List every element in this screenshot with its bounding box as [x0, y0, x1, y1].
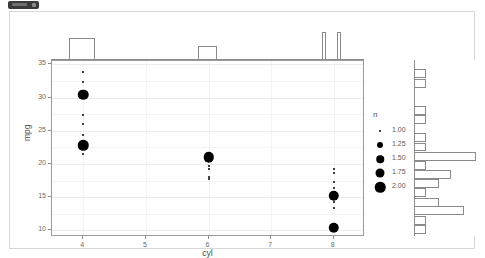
scatter-point: [333, 181, 335, 183]
window-chip[interactable]: [8, 1, 39, 9]
y-tick-mark: [48, 97, 51, 98]
legend-title: n: [373, 110, 418, 119]
gridline-horizontal-minor: [52, 147, 363, 148]
scatter-point: [82, 123, 84, 125]
legend-entry-label: 1.50: [392, 154, 406, 161]
legend-key-dot: [376, 169, 385, 178]
x-tick-mark: [82, 236, 83, 239]
x-tick-mark: [270, 236, 271, 239]
right-marginal-histogram: [414, 60, 476, 236]
right-histogram-bar: [414, 225, 426, 234]
x-tick-label: 8: [321, 241, 345, 248]
y-tick-label: 30: [25, 93, 46, 100]
y-tick-label: 15: [25, 192, 46, 199]
top-histogram-bar: [69, 38, 95, 60]
right-histogram-bar: [414, 206, 464, 215]
right-histogram-bar: [414, 198, 439, 207]
x-tick-label: 4: [70, 241, 94, 248]
top-histogram-bar: [198, 46, 217, 60]
scatter-plot-panel: [51, 60, 364, 236]
gridline-horizontal: [52, 197, 363, 198]
x-tick-mark: [208, 236, 209, 239]
x-tick-mark: [333, 236, 334, 239]
gridline-horizontal-minor: [52, 214, 363, 215]
legend-entry[interactable]: 1.25: [372, 138, 418, 152]
x-axis-title: cyl: [51, 248, 364, 258]
scatter-point: [78, 90, 89, 101]
right-histogram-bar: [414, 152, 476, 161]
scatter-point: [82, 71, 84, 73]
right-histogram-bar: [414, 170, 451, 179]
gridline-horizontal: [52, 98, 363, 99]
top-histogram-bar: [337, 32, 341, 60]
legend-entries: 1.001.251.501.752.00: [372, 124, 418, 194]
legend-entry-label: 2.00: [392, 182, 406, 189]
x-tick-label: 5: [133, 241, 157, 248]
legend-key-dot: [377, 142, 383, 148]
scatter-point: [208, 168, 210, 170]
scatter-point: [82, 153, 84, 155]
legend-entry-label: 1.00: [392, 126, 406, 133]
legend-key-dot: [379, 130, 381, 132]
legend-key-dot: [376, 155, 384, 163]
top-histogram-bar: [322, 32, 326, 60]
legend-entry[interactable]: 2.00: [372, 180, 418, 194]
y-tick-mark: [48, 130, 51, 131]
right-histogram-bar: [414, 216, 426, 225]
scatter-point: [333, 172, 335, 174]
scatter-point: [333, 207, 335, 209]
figure-container: 101520253035 45678 mpg cyl n 1.001.251.5…: [9, 11, 475, 249]
y-tick-label: 35: [25, 59, 46, 66]
y-tick-mark: [48, 196, 51, 197]
right-histogram-bar: [414, 79, 426, 88]
scatter-point: [208, 178, 210, 180]
scatter-point: [78, 140, 89, 151]
gridline-horizontal: [52, 230, 363, 231]
legend-key-dot: [375, 182, 386, 193]
gridline-horizontal: [52, 131, 363, 132]
chip-inner-bar: [12, 3, 27, 6]
y-tick-label: 20: [25, 159, 46, 166]
legend-entry-label: 1.25: [392, 140, 406, 147]
x-tick-mark: [145, 236, 146, 239]
scatter-point: [333, 187, 335, 189]
scatter-point: [333, 168, 335, 170]
chip-dot-icon: [32, 3, 36, 7]
scatter-point: [82, 81, 84, 83]
legend-entry[interactable]: 1.00: [372, 124, 418, 138]
scatter-point: [328, 222, 339, 233]
scatter-point: [333, 201, 335, 203]
top-marginal-histogram: [51, 30, 364, 60]
scatter-point: [82, 134, 84, 136]
y-axis-title: mpg: [22, 124, 32, 141]
legend-entry-label: 1.75: [392, 168, 406, 175]
gridline-horizontal-minor: [52, 114, 363, 115]
x-tick-label: 6: [196, 241, 220, 248]
y-tick-label: 10: [25, 225, 46, 232]
scatter-point: [328, 191, 339, 202]
y-tick-mark: [48, 163, 51, 164]
gridline-horizontal: [52, 64, 363, 65]
right-histogram-bar: [414, 69, 426, 78]
gridline-horizontal-minor: [52, 181, 363, 182]
legend-entry[interactable]: 1.50: [372, 152, 418, 166]
scatter-point: [82, 114, 84, 116]
scatter-point: [203, 152, 214, 163]
scatter-point: [208, 165, 210, 167]
y-tick-mark: [48, 229, 51, 230]
gridline-horizontal-minor: [52, 81, 363, 82]
y-tick-mark: [48, 63, 51, 64]
legend: n 1.001.251.501.752.00: [372, 110, 418, 194]
x-tick-label: 7: [258, 241, 282, 248]
legend-entry[interactable]: 1.75: [372, 166, 418, 180]
